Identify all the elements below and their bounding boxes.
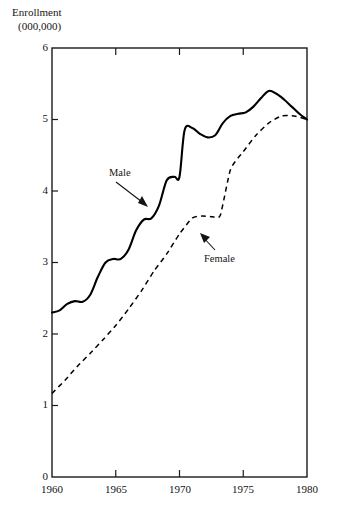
annotation-arrow-male (116, 182, 148, 207)
arrow-head-male (138, 196, 148, 207)
plot-frame (52, 48, 307, 477)
frame-box (52, 48, 307, 477)
chart-plot-area (0, 0, 339, 517)
y-axis-ticks (52, 120, 58, 406)
x-axis-ticks-top (116, 48, 244, 55)
series-line-female (52, 116, 307, 394)
x-axis-ticks (116, 470, 244, 477)
arrow-head-female (200, 233, 210, 243)
enrollment-line-chart: Enrollment (000,000) 6 5 4 3 2 1 0 1960 … (0, 0, 339, 517)
annotation-arrow-female (200, 233, 215, 250)
